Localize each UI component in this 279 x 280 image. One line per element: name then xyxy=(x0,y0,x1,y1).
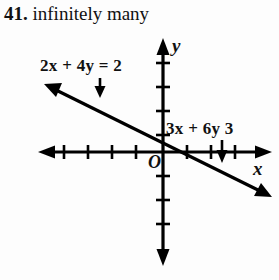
pointer-arrow-right xyxy=(217,140,228,163)
y-axis-top-arrowhead xyxy=(157,38,170,55)
graph-line xyxy=(44,83,272,197)
equation-label-right: 3x + 6y 3 xyxy=(166,119,234,139)
pointer-arrow-left xyxy=(95,78,106,98)
x-axis-right-arrowhead xyxy=(255,146,272,159)
y-axis-bottom-arrowhead xyxy=(157,249,170,266)
equation-left-text: 2x + 4y = 2 xyxy=(40,56,122,75)
equation-right-text: 3x + 6y 3 xyxy=(166,119,234,138)
equation-label-left: 2x + 4y = 2 xyxy=(40,56,122,76)
worksheet-answer-figure: 41. infinitely many xyxy=(0,0,279,280)
x-axis-label: x xyxy=(253,158,263,180)
origin-label: O xyxy=(148,152,161,173)
x-axis-left-arrowhead xyxy=(38,146,55,159)
y-axis-label: y xyxy=(172,35,180,57)
coordinate-graph xyxy=(0,0,279,280)
